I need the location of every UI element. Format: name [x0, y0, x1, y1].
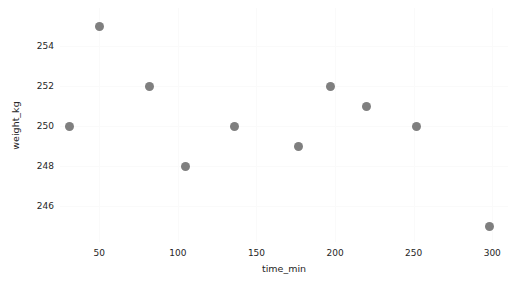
data-point — [294, 142, 303, 151]
data-point — [326, 82, 335, 91]
x-axis-title: time_min — [60, 263, 508, 274]
data-point — [485, 222, 494, 231]
x-axis-tick-label: 100 — [169, 248, 186, 258]
y-axis-tick-label: 254 — [10, 41, 54, 51]
data-point — [412, 122, 421, 131]
x-axis-tick-label: 50 — [94, 248, 105, 258]
gridline-vertical — [492, 8, 493, 242]
gridline-horizontal — [60, 46, 508, 47]
x-axis-tick-labels: 50100150200250300 — [60, 248, 508, 262]
y-axis-tick-label: 252 — [10, 81, 54, 91]
data-point — [95, 22, 104, 31]
scatter-chart: weight_kg 246248250252254 50100150200250… — [0, 0, 516, 282]
y-axis-tick-labels: 246248250252254 — [0, 8, 54, 242]
x-axis-tick-label: 300 — [484, 248, 501, 258]
x-axis-tick-label: 150 — [248, 248, 265, 258]
x-axis-tick-label: 250 — [405, 248, 422, 258]
data-point — [145, 82, 154, 91]
data-point — [181, 162, 190, 171]
gridline-vertical — [335, 8, 336, 242]
y-axis-tick-label: 248 — [10, 161, 54, 171]
gridline-horizontal — [60, 206, 508, 207]
gridline-vertical — [99, 8, 100, 242]
data-point — [65, 122, 74, 131]
gridline-vertical — [256, 8, 257, 242]
gridline-vertical — [178, 8, 179, 242]
data-point — [230, 122, 239, 131]
gridline-horizontal — [60, 86, 508, 87]
x-axis-tick-label: 200 — [326, 248, 343, 258]
gridline-horizontal — [60, 126, 508, 127]
y-axis-tick-label: 250 — [10, 121, 54, 131]
plot-area — [60, 8, 508, 242]
data-point — [362, 102, 371, 111]
gridline-horizontal — [60, 166, 508, 167]
y-axis-tick-label: 246 — [10, 201, 54, 211]
